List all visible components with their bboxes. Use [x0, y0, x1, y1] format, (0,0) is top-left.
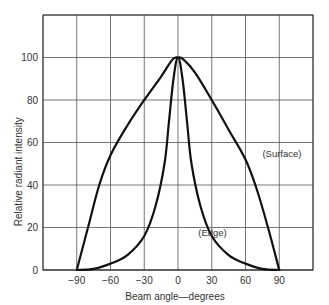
grid-lines: [43, 15, 313, 270]
y-tick-label: 100: [21, 52, 38, 63]
radiant-intensity-chart: −90−60−300306090 020406080100 Beam angle…: [0, 0, 329, 305]
y-tick-label: 20: [27, 222, 39, 233]
x-tick-label: 60: [240, 275, 252, 286]
y-axis-label: Relative radiant intensity: [13, 117, 24, 226]
x-axis-ticks: −90−60−300306090: [68, 275, 285, 286]
x-tick-label: 90: [274, 275, 286, 286]
x-axis-label: Beam angle—degrees: [125, 291, 225, 302]
x-tick-label: −90: [68, 275, 85, 286]
x-tick-label: 0: [175, 275, 181, 286]
y-tick-label: 40: [27, 180, 39, 191]
x-tick-label: 30: [206, 275, 218, 286]
annotation-label: (Edge): [198, 227, 227, 238]
x-tick-label: −30: [136, 275, 153, 286]
y-tick-label: 60: [27, 137, 39, 148]
x-tick-label: −60: [102, 275, 119, 286]
curve-annotations: (Surface)(Edge): [198, 148, 301, 238]
annotation-label: (Surface): [262, 148, 301, 159]
y-tick-label: 80: [27, 95, 39, 106]
y-tick-label: 0: [32, 265, 38, 276]
